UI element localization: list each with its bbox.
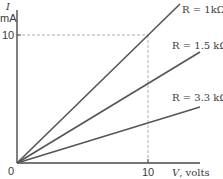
y-tick-label: 10 xyxy=(2,29,14,41)
x-tick-label: 10 xyxy=(142,166,154,178)
y-axis-unit: mA xyxy=(0,12,17,24)
x-axis-label: V, volts xyxy=(172,167,210,178)
series-line-1-5k xyxy=(17,52,200,163)
x-axis-label-unit: , volts xyxy=(179,167,209,178)
iv-chart: I mA 10 0 10 V, volts R = 1kΩ R = 1.5 kΩ… xyxy=(0,0,223,179)
series-line-1k xyxy=(17,4,180,163)
y-axis-symbol: I xyxy=(5,1,11,12)
series-label-3-3k: R = 3.3 kΩ xyxy=(172,92,223,103)
series-line-3-3k xyxy=(17,107,200,163)
origin-label: 0 xyxy=(8,165,14,177)
series-label-1-5k: R = 1.5 kΩ xyxy=(172,40,223,51)
series-label-1k: R = 1kΩ xyxy=(182,4,223,15)
